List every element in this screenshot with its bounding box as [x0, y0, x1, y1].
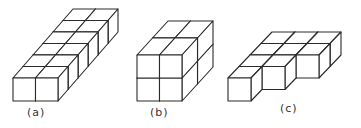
- cube-front-face: [36, 78, 59, 101]
- cube-front-face: [262, 67, 285, 90]
- figure-b-label: (b): [150, 106, 169, 119]
- cube-front-face: [137, 78, 160, 101]
- cube-front-face: [160, 78, 183, 101]
- cube-front-face: [228, 78, 251, 101]
- cube-front-face: [137, 55, 160, 78]
- cube-diagrams: [0, 0, 361, 128]
- figure-b-cubes: [137, 21, 213, 101]
- figure-c-cubes: [228, 32, 341, 101]
- cube-front-face: [160, 55, 183, 78]
- cube-front-face: [296, 55, 319, 78]
- figure-a-label: (a): [27, 106, 45, 119]
- figure-a-cubes: [13, 9, 118, 101]
- figure-c-label: (c): [280, 102, 298, 115]
- cube-front-face: [13, 78, 36, 101]
